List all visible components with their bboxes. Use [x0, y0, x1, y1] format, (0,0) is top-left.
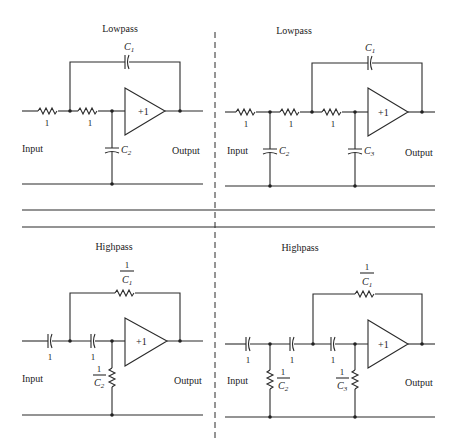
resistor-label: C2 [94, 377, 105, 390]
capacitor-label: C1 [124, 41, 134, 54]
resistor-value: 1 [45, 118, 50, 128]
capacitor-icon [91, 334, 95, 348]
resistor-label-numerator: 1 [340, 367, 345, 377]
output-label: Output [172, 145, 200, 156]
resistor-icon [322, 109, 341, 115]
resistor-value: 1 [88, 118, 93, 128]
amp-gain: +1 [378, 339, 389, 350]
resistor-label-numerator: 1 [125, 260, 130, 270]
resistor-icon [78, 108, 97, 114]
resistor-icon [280, 109, 299, 115]
resistor-value: 1 [331, 119, 336, 129]
capacitor-icon [368, 56, 372, 70]
capacitor-value: 1 [290, 355, 295, 365]
capacitor-icon [48, 334, 52, 348]
resistor-icon [38, 108, 57, 114]
resistor-icon [355, 291, 374, 297]
capacitor-icon [246, 337, 250, 351]
resistor-label: C2 [278, 380, 289, 393]
input-label: Input [227, 145, 248, 156]
output-label: Output [405, 147, 433, 158]
capacitor-value: 1 [246, 355, 251, 365]
input-label: Input [227, 375, 248, 386]
panel-highpass-3rd-order: Highpass 1 1 1 +1 1 C1 1 C2 1 C3 [225, 242, 435, 419]
amp-gain: +1 [138, 106, 149, 117]
panel-lowpass-2nd-order: Lowpass 1 1 +1 C1 C2 Input Output [22, 23, 203, 186]
input-label: Input [22, 143, 43, 154]
resistor-icon [352, 370, 358, 389]
panel-lowpass-3rd-order: Lowpass 1 1 1 +1 C1 C2 C3 Input Output [225, 25, 435, 188]
output-label: Output [174, 375, 202, 386]
resistor-label: C3 [337, 380, 348, 393]
capacitor-icon [331, 337, 335, 351]
filter-circuits-figure: Lowpass 1 1 +1 C1 C2 Input Output Lowpas… [0, 0, 455, 447]
panel-title: Lowpass [276, 25, 312, 36]
capacitor-value: 1 [48, 352, 53, 362]
resistor-value: 1 [289, 119, 294, 129]
resistor-label: C1 [122, 274, 132, 287]
panel-title: Highpass [281, 242, 318, 253]
panel-title: Highpass [95, 241, 132, 252]
resistor-label: C1 [362, 276, 372, 289]
capacitor-label: C2 [279, 145, 290, 158]
panel-title: Lowpass [102, 23, 138, 34]
resistor-icon [267, 370, 273, 389]
output-label: Output [405, 377, 433, 388]
capacitor-value: 1 [91, 352, 96, 362]
resistor-icon [115, 290, 134, 296]
resistor-label-numerator: 1 [365, 262, 370, 272]
capacitor-label: C3 [364, 145, 375, 158]
capacitor-label: C1 [365, 42, 375, 55]
capacitor-icon [125, 55, 129, 69]
resistor-value: 1 [244, 119, 249, 129]
capacitor-icon [290, 337, 294, 351]
input-label: Input [22, 373, 43, 384]
amp-gain: +1 [136, 336, 147, 347]
panel-highpass-2nd-order: Highpass 1 1 +1 1 C1 1 C2 Input Output [22, 241, 203, 417]
capacitor-label: C2 [121, 144, 132, 157]
resistor-label-numerator: 1 [97, 364, 102, 374]
amp-gain: +1 [378, 107, 389, 118]
capacitor-value: 1 [331, 355, 336, 365]
resistor-label-numerator: 1 [281, 367, 286, 377]
resistor-icon [109, 368, 115, 387]
resistor-icon [236, 109, 255, 115]
